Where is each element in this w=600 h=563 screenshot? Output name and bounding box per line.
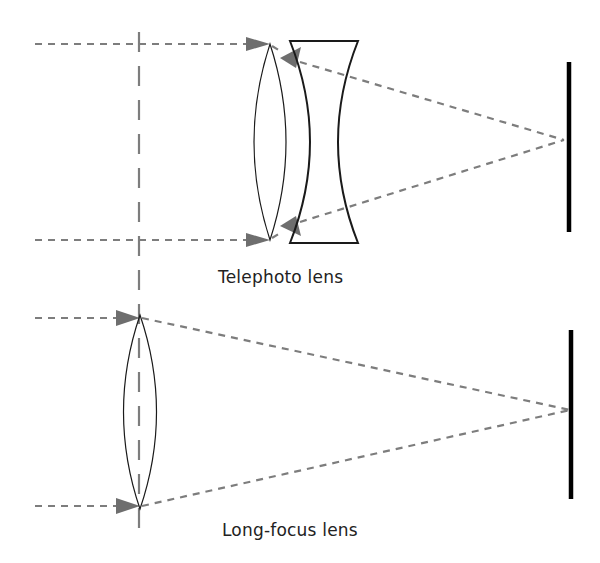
telephoto-lens-label: Telephoto lens	[218, 267, 343, 287]
telephoto-converging-ray-bottom	[300, 140, 564, 222]
convex-lens	[254, 44, 286, 240]
arrow-icon	[116, 310, 140, 326]
telephoto-converging-ray-top	[300, 62, 564, 140]
ray-segment	[272, 232, 282, 238]
concave-lens	[290, 41, 358, 243]
long-focus-panel	[35, 310, 571, 514]
longfocus-converging-ray-bottom	[142, 410, 570, 506]
arrow-icon	[246, 233, 270, 247]
arrow-icon	[246, 37, 270, 51]
longfocus-converging-ray-top	[142, 318, 570, 410]
long-focus-lens-label: Long-focus lens	[222, 520, 358, 540]
ray-segment	[272, 46, 282, 52]
arrow-icon	[116, 498, 140, 514]
telephoto-panel	[35, 37, 569, 247]
